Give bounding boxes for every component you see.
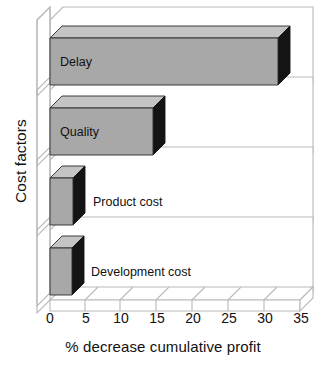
bar-product-cost — [50, 166, 85, 225]
x-tick-30: 30 — [248, 310, 282, 326]
plot-floor — [50, 287, 313, 311]
x-tick-5: 5 — [69, 310, 103, 326]
plot-left-wall — [37, 7, 50, 313]
bar-development-cost — [50, 236, 84, 295]
x-tick-25: 25 — [212, 310, 246, 326]
x-tick-20: 20 — [176, 310, 210, 326]
bar-label-quality: Quality — [60, 125, 99, 139]
x-tick-35: 35 — [284, 310, 318, 326]
x-tick-0: 0 — [33, 310, 67, 326]
x-axis-title: % decrease cumulative profit — [0, 338, 326, 355]
bar-label-delay: Delay — [60, 55, 92, 69]
bar-label-development-cost: Development cost — [91, 265, 191, 279]
x-tick-15: 15 — [140, 310, 174, 326]
x-axis-tick-labels: 0 5 10 15 20 25 30 35 — [0, 310, 326, 330]
bar-label-product-cost: Product cost — [93, 195, 162, 209]
bar-chart: Cost factors .fr { fill:none; stroke:#b9… — [0, 0, 326, 367]
x-tick-10: 10 — [104, 310, 138, 326]
